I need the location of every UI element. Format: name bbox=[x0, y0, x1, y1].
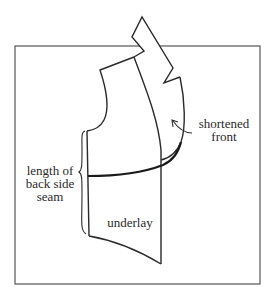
label-underlay: underlay bbox=[104, 216, 156, 229]
label-shortened-front: shortened front bbox=[190, 117, 258, 143]
pattern-diagram: shortened front length of back side seam… bbox=[0, 0, 276, 296]
label-shortened-front-line2: front bbox=[190, 130, 258, 143]
label-length-back-side-seam: length of back side seam bbox=[22, 164, 78, 203]
brace-bracket bbox=[79, 131, 86, 234]
label-length-line3: seam bbox=[22, 190, 78, 203]
pattern-drawing bbox=[0, 0, 276, 296]
